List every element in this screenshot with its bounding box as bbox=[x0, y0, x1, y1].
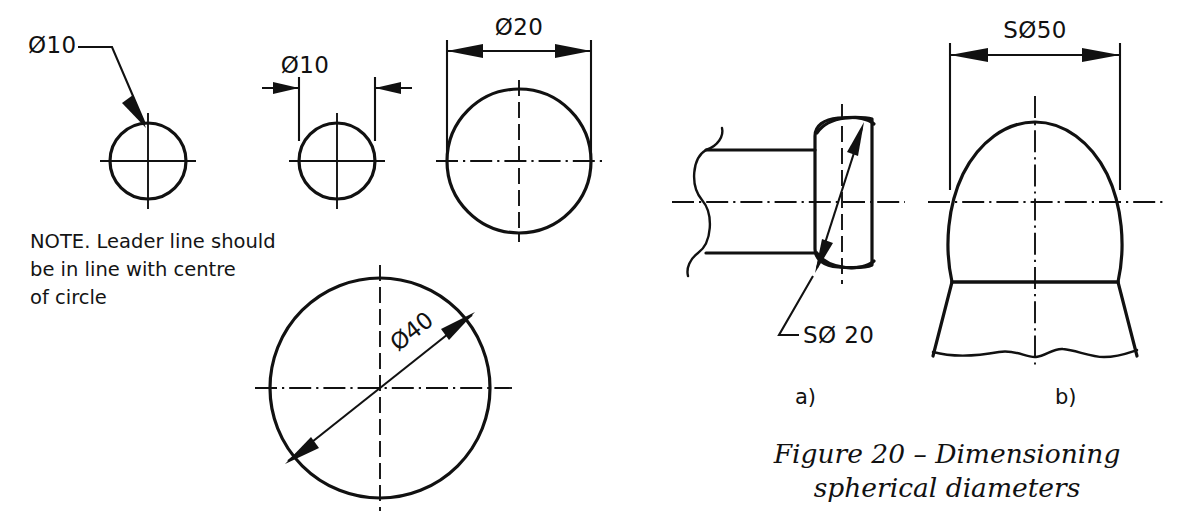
arrowhead-right-2 bbox=[375, 82, 401, 94]
view-circle-diagonal: Ø40 bbox=[255, 265, 512, 511]
note-line-3: of circle bbox=[30, 286, 107, 309]
view-ball-on-stem: SØ50 bbox=[928, 17, 1165, 366]
arrowhead-right-3 bbox=[555, 44, 591, 58]
arrowhead-left-b bbox=[950, 48, 988, 62]
figure-caption-line-1: Figure 20 – Dimensioning bbox=[773, 438, 1121, 469]
figure-caption-line-2: spherical diameters bbox=[814, 472, 1081, 503]
subcaption-b: b) bbox=[1055, 385, 1077, 409]
arrowhead-upper-a bbox=[847, 122, 864, 156]
note-block: NOTE. Leader line should be in line with… bbox=[30, 230, 276, 309]
shaft-break-symbol bbox=[687, 150, 709, 276]
leader-arrowhead-1 bbox=[122, 95, 146, 128]
dimension-label-circle2: Ø10 bbox=[281, 52, 330, 78]
dimension-label-sphere-b: SØ50 bbox=[1003, 17, 1067, 43]
subcaption-a: a) bbox=[795, 385, 816, 409]
engineering-drawing-canvas: Ø10 Ø10 bbox=[0, 0, 1204, 521]
arrowhead-right-b bbox=[1082, 48, 1120, 62]
arrowhead-left-3 bbox=[447, 44, 483, 58]
arrowhead-left-2 bbox=[273, 82, 299, 94]
stem-right-edge bbox=[1118, 282, 1137, 356]
dimension-label-circle1: Ø10 bbox=[28, 32, 77, 58]
drawing-page: Ø10 Ø10 bbox=[0, 0, 1204, 521]
view-circle-outside-arrows: Ø10 bbox=[262, 52, 412, 209]
view-shaft-spherical-end: SØ 20 bbox=[672, 104, 905, 348]
dimension-label-circle3: Ø20 bbox=[495, 14, 544, 40]
note-line-2: be in line with centre bbox=[30, 258, 236, 281]
note-line-1: NOTE. Leader line should bbox=[30, 230, 276, 253]
view-circle-leader: Ø10 bbox=[28, 32, 196, 209]
shaft-break-symbol-tail bbox=[706, 128, 722, 150]
stem-left-edge bbox=[933, 282, 952, 356]
dimension-label-sphere-a: SØ 20 bbox=[803, 322, 874, 348]
view-circle-dim-above: Ø20 bbox=[436, 14, 602, 242]
